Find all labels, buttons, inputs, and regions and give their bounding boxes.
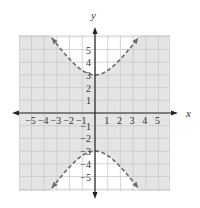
- x-axis-label: x: [185, 107, 191, 119]
- y-tick-label: −5: [80, 172, 91, 183]
- y-axis-down-arrow-icon: [93, 192, 98, 199]
- y-tick-label: −3: [80, 146, 91, 157]
- x-tick-label: 3: [130, 115, 135, 126]
- plot-canvas: −5−4−3−2−11234554321−1−2−3−4−5 x y: [0, 0, 200, 208]
- y-tick-label: 2: [86, 83, 91, 94]
- x-tick-label: −4: [38, 115, 49, 126]
- x-tick-label: 4: [142, 115, 147, 126]
- x-tick-label: −3: [51, 115, 62, 126]
- x-tick-label: −2: [63, 115, 74, 126]
- y-tick-label: 1: [86, 95, 91, 106]
- hyperbola-graph: −5−4−3−2−11234554321−1−2−3−4−5 x y: [0, 0, 200, 208]
- y-axis-label: y: [90, 9, 96, 21]
- y-tick-label: −1: [80, 121, 91, 132]
- x-tick-label: −5: [25, 115, 36, 126]
- x-axis-right-arrow-icon: [171, 111, 178, 116]
- x-tick-label: 2: [117, 115, 122, 126]
- y-tick-label: −4: [80, 159, 91, 170]
- y-tick-label: 3: [86, 70, 91, 81]
- y-axis-up-arrow-icon: [93, 27, 98, 34]
- x-tick-label: 5: [155, 115, 160, 126]
- x-axis-left-arrow-icon: [12, 111, 19, 116]
- y-tick-label: −2: [80, 133, 91, 144]
- x-tick-label: 1: [104, 115, 109, 126]
- y-tick-label: 4: [86, 57, 91, 68]
- y-tick-label: 5: [86, 45, 91, 56]
